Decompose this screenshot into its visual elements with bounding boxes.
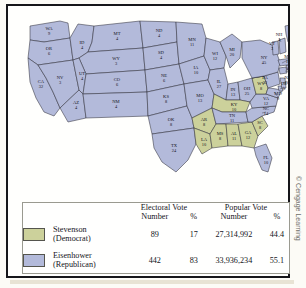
legend-swatch-cell (23, 247, 53, 273)
popular-vote-header: Popular Vote (203, 203, 289, 212)
state-votes-tn: 11 (230, 118, 234, 123)
state-label-nc: NC (263, 106, 269, 111)
state-label-or: OR (46, 46, 53, 51)
state-label-ia: IA (194, 65, 200, 70)
state-label-az: AZ (73, 100, 79, 105)
state-label-pa: PA (262, 75, 268, 80)
legend-swatch-cell (23, 221, 53, 247)
figure-frame: WA9OR6CA32NV3ID4MT4WY3UT4CO6AZ4NM4ND4SD4… (6, 4, 290, 278)
legend-table: Electoral Vote Popular Vote Number % Num… (23, 203, 289, 273)
copyright-credit: © Cengage Learning (293, 176, 305, 280)
figure-root: WA9OR6CA32NV3ID4MT4WY3UT4CO6AZ4NM4ND4SD4… (0, 0, 306, 288)
electoral-percent: 17 (185, 221, 203, 247)
candidate-name: Stevenson (53, 225, 125, 235)
state-votes-md: 9 (277, 96, 280, 101)
state-votes-nj: 16 (285, 80, 288, 85)
state-label-nh: NH (276, 32, 283, 37)
legend-row: Stevenson(Democrat)891727,314,99244.4 (23, 221, 289, 247)
state-votes-pa: 32 (263, 80, 267, 85)
state-label-ct: CT (287, 66, 288, 71)
state-label-ga: GA (245, 130, 252, 135)
state-ct[interactable] (279, 67, 287, 74)
popular-percent: 55.1 (265, 247, 289, 273)
state-label-nm: NM (112, 99, 119, 104)
legend-spacer (23, 203, 53, 212)
state-label-in: IN (231, 87, 237, 92)
state-label-oh: OH (244, 86, 251, 91)
popular-number: 27,314,992 (203, 221, 265, 247)
state-label-ks: KS (163, 94, 169, 99)
state-me[interactable] (285, 24, 288, 42)
state-votes-ma: 16 (286, 59, 288, 64)
us-electoral-map: WA9OR6CA32NV3ID4MT4WY3UT4CO6AZ4NM4ND4SD4… (16, 12, 288, 190)
state-label-fl: FL (263, 155, 269, 160)
legend-panel: Electoral Vote Popular Vote Number % Num… (22, 202, 290, 274)
party-name: (Democrat) (53, 234, 125, 244)
state-votes-mn: 11 (190, 42, 194, 47)
state-label-wi: WI (212, 51, 218, 56)
state-label-ca: CA (38, 79, 45, 84)
state-label-nd: ND (156, 28, 163, 33)
popular-number: 33,936,234 (203, 247, 265, 273)
state-label-mt: MT (114, 31, 121, 36)
credit-text: © Cengage Learning (295, 176, 302, 241)
legend-spacer-party (53, 203, 125, 212)
electoral-percent: 83 (185, 247, 203, 273)
state-label-va: VA (263, 96, 270, 101)
state-label-ut: UT (79, 71, 85, 76)
electoral-number: 89 (125, 221, 185, 247)
state-label-mi: MI (229, 47, 235, 52)
state-label-id: ID (80, 40, 86, 45)
state-label-ok: OK (168, 117, 175, 122)
state-label-il: IL (217, 79, 222, 84)
frame-shadow (10, 280, 294, 284)
state-votes-wi: 12 (213, 56, 217, 61)
legend-spacer-party-2 (53, 212, 125, 221)
state-votes-ga: 12 (246, 135, 250, 140)
legend-party-cell: Stevenson(Democrat) (53, 221, 125, 247)
state-label-sd: SD (158, 50, 165, 55)
swatch-democrat (23, 228, 45, 241)
state-label-ar: AR (201, 117, 208, 122)
state-label-md: MD (274, 91, 282, 96)
state-label-ms: MS (217, 131, 224, 136)
popular-percent: 44.4 (265, 221, 289, 247)
legend-row: Eisenhower(Republican)4428333,936,23455.… (23, 247, 289, 273)
electoral-vote-header: Electoral Vote (125, 203, 203, 212)
state-label-ne: NE (161, 73, 167, 78)
legend-party-cell: Eisenhower(Republican) (53, 247, 125, 273)
state-label-nv: NV (57, 75, 64, 80)
state-label-mn: MN (188, 37, 196, 42)
state-label-al: AL (231, 131, 237, 136)
legend-spacer-2 (23, 212, 53, 221)
state-label-co: CO (114, 77, 121, 82)
map-svg: WA9OR6CA32NV3ID4MT4WY3UT4CO6AZ4NM4ND4SD4… (16, 12, 288, 190)
state-label-la: LA (201, 137, 208, 142)
party-name: (Republican) (53, 260, 125, 270)
state-label-tn: TN (229, 113, 236, 118)
state-votes-va: 12 (264, 101, 268, 106)
popular-percent-header: % (265, 212, 289, 221)
state-label-vt: VT (269, 41, 275, 46)
state-label-ny: NY (261, 55, 268, 60)
state-votes-al: 11 (232, 136, 236, 141)
state-label-tx: TX (171, 143, 178, 148)
state-wy[interactable] (79, 48, 145, 74)
legend-group-header-row: Electoral Vote Popular Vote (23, 203, 289, 212)
state-label-ky: KY (231, 102, 238, 107)
state-votes-ca: 32 (39, 84, 43, 89)
swatch-republican (23, 254, 45, 267)
state-label-wa: WA (45, 26, 53, 31)
state-label-wy: WY (112, 56, 120, 61)
electoral-number-header: Number (125, 212, 185, 221)
popular-number-header: Number (203, 212, 265, 221)
state-label-ma: MA (284, 54, 288, 59)
state-label-mo: MO (196, 93, 204, 98)
electoral-number: 442 (125, 247, 185, 273)
legend-col-header-row: Number % Number % (23, 212, 289, 221)
state-label-nj: NJ (284, 75, 288, 80)
candidate-name: Eisenhower (53, 251, 125, 261)
electoral-percent-header: % (185, 212, 203, 221)
state-label-sc: SC (257, 120, 263, 125)
